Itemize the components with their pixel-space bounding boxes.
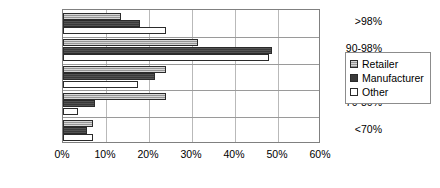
- category-group: [63, 64, 319, 91]
- bar-manufacturer: [63, 73, 155, 80]
- legend-swatch-other-icon: [350, 88, 358, 96]
- x-axis-tick-1: 10%: [84, 148, 126, 160]
- legend-swatch-retailer-icon: [350, 60, 358, 68]
- bar-chart: >98%90-98%80-90%70-80%<70% 0%10%20%30%40…: [0, 0, 440, 188]
- bar-manufacturer: [63, 47, 272, 54]
- bar-other: [63, 27, 166, 34]
- x-axis-tick-2: 20%: [127, 148, 169, 160]
- legend-label-other: Other: [362, 86, 388, 98]
- category-group: [63, 37, 319, 64]
- category-group: [63, 117, 319, 144]
- legend-item-retailer: Retailer: [350, 57, 427, 71]
- category-group: [63, 90, 319, 117]
- legend-item-manufacturer: Manufacturer: [350, 71, 427, 85]
- category-separator: [63, 37, 319, 38]
- legend-item-other: Other: [350, 85, 427, 99]
- legend-label-retailer: Retailer: [362, 58, 398, 70]
- x-axis-tick-3: 30%: [170, 148, 212, 160]
- bar-retailer: [63, 93, 166, 100]
- bar-manufacturer: [63, 20, 140, 27]
- x-axis-tick-4: 40%: [213, 148, 255, 160]
- x-axis-tick-0: 0%: [41, 148, 83, 160]
- legend-swatch-manufacturer-icon: [350, 74, 358, 82]
- plot-area: [62, 9, 320, 143]
- category-separator: [63, 64, 319, 65]
- category-separator: [63, 117, 319, 118]
- category-separator: [63, 90, 319, 91]
- y-axis-label-0: >98%: [324, 16, 382, 27]
- x-axis-tick-6: 60%: [299, 148, 341, 160]
- bar-manufacturer: [63, 127, 87, 134]
- y-axis-label-4: <70%: [324, 124, 382, 135]
- bar-retailer: [63, 120, 93, 127]
- bar-manufacturer: [63, 100, 95, 107]
- bar-other: [63, 81, 138, 88]
- bar-other: [63, 108, 78, 115]
- bar-retailer: [63, 66, 166, 73]
- bar-retailer: [63, 39, 198, 46]
- category-group: [63, 10, 319, 37]
- bar-other: [63, 134, 93, 141]
- bar-other: [63, 54, 269, 61]
- legend-label-manufacturer: Manufacturer: [362, 72, 424, 84]
- bar-retailer: [63, 13, 121, 20]
- x-axis-tick-5: 50%: [256, 148, 298, 160]
- legend: Retailer Manufacturer Other: [345, 52, 431, 104]
